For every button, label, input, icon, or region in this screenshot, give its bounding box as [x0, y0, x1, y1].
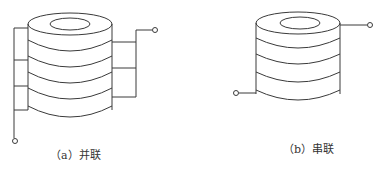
stack-a-disc-boundary-4 — [28, 88, 112, 99]
terminal-a-bottom — [13, 139, 18, 144]
stack-b-disc-boundary-2 — [256, 54, 340, 64]
stack-b-bottom-edge — [256, 90, 340, 100]
stack-a-disc-boundary-3 — [28, 72, 112, 83]
stack-a-top-face — [28, 13, 112, 35]
terminal-b-bottom — [234, 91, 239, 96]
stack-b-top-face — [256, 12, 340, 34]
figure-a-parallel-stack — [13, 13, 158, 144]
caption-series: （b）串联 — [283, 140, 334, 156]
terminal-a-top — [153, 28, 158, 33]
stack-a-bottom-edge — [28, 106, 112, 117]
caption-parallel: （a）并联 — [50, 146, 101, 162]
stack-b-disc-boundary-1 — [256, 38, 340, 48]
stack-b-disc-boundary-3 — [256, 72, 340, 82]
stack-a-disc-boundary-2 — [28, 56, 112, 67]
terminal-b-top — [368, 23, 373, 28]
stack-a-disc-boundary-1 — [28, 40, 112, 51]
figure-b-series-stack — [234, 12, 373, 100]
